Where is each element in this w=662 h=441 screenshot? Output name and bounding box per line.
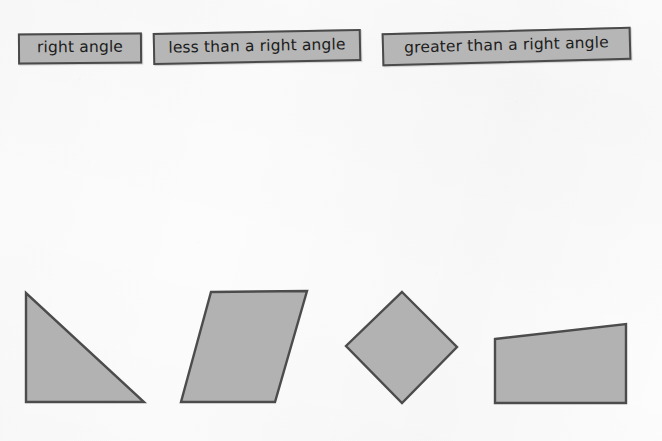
shape-right-trapezoid[interactable]: [495, 324, 626, 403]
shape-right-triangle[interactable]: [26, 293, 144, 402]
shape-rhombus[interactable]: [346, 292, 457, 403]
worksheet-page: right angle less than a right angle grea…: [0, 0, 662, 441]
shapes-layer: [0, 0, 662, 441]
shape-parallelogram[interactable]: [181, 291, 307, 402]
